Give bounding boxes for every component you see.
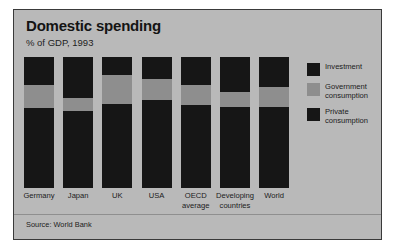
chart-subtitle: % of GDP, 1993 bbox=[26, 37, 93, 48]
bar-segment-private-consumption bbox=[259, 107, 289, 188]
bar-segment-government-consumption bbox=[142, 79, 172, 100]
legend-label: Private consumption bbox=[325, 107, 377, 126]
source-note: Source: World Bank bbox=[26, 220, 92, 229]
bar-segment-government-consumption bbox=[63, 98, 93, 111]
bar-segment-investment bbox=[259, 57, 289, 87]
x-axis-label: World bbox=[251, 191, 297, 201]
page-title: Domestic spending bbox=[26, 17, 161, 34]
legend-item: Investment bbox=[307, 62, 377, 76]
bar-usa bbox=[142, 57, 172, 188]
bar-germany bbox=[24, 57, 54, 188]
bar-segment-government-consumption bbox=[220, 92, 250, 106]
bar-segment-private-consumption bbox=[181, 105, 211, 188]
legend-item: Government consumption bbox=[307, 82, 377, 101]
bar-segment-investment bbox=[181, 57, 211, 85]
bar-segment-government-consumption bbox=[181, 85, 211, 106]
legend-swatch-icon bbox=[307, 63, 320, 76]
chart-legend: InvestmentGovernment consumptionPrivate … bbox=[307, 62, 377, 132]
bar-segment-investment bbox=[24, 57, 54, 85]
bar-segment-government-consumption bbox=[102, 75, 132, 104]
chart-figure: Domestic spending % of GDP, 1993 Germany… bbox=[13, 9, 382, 240]
bar-segment-investment bbox=[63, 57, 93, 98]
legend-item: Private consumption bbox=[307, 107, 377, 126]
bar-segment-private-consumption bbox=[24, 108, 54, 188]
legend-swatch-icon bbox=[307, 108, 320, 121]
bar-segment-investment bbox=[220, 57, 250, 92]
bar-oecd-average bbox=[181, 57, 211, 188]
bar-segment-private-consumption bbox=[220, 107, 250, 188]
legend-label: Government consumption bbox=[325, 82, 377, 101]
bar-segment-investment bbox=[102, 57, 132, 75]
plot-area bbox=[24, 57, 296, 188]
bar-japan bbox=[63, 57, 93, 188]
bar-world bbox=[259, 57, 289, 188]
legend-label: Investment bbox=[325, 62, 377, 71]
bar-uk bbox=[102, 57, 132, 188]
bar-segment-private-consumption bbox=[102, 104, 132, 188]
bar-developing-countries bbox=[220, 57, 250, 188]
bar-segment-investment bbox=[142, 57, 172, 79]
bar-segment-private-consumption bbox=[63, 111, 93, 188]
bar-segment-private-consumption bbox=[142, 100, 172, 188]
divider bbox=[14, 214, 381, 215]
legend-swatch-icon bbox=[307, 83, 320, 96]
bar-segment-government-consumption bbox=[24, 85, 54, 109]
bar-segment-government-consumption bbox=[259, 87, 289, 107]
